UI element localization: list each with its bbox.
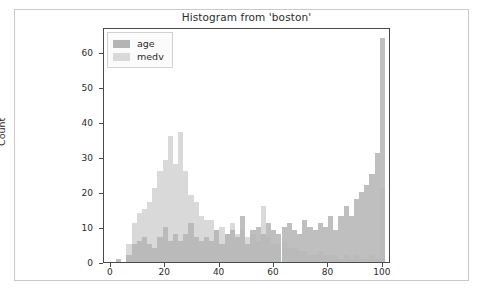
y-tick-mark <box>99 158 103 159</box>
x-tick-mark <box>219 263 220 267</box>
legend-swatch-medv <box>113 53 130 61</box>
legend-label-age: age <box>137 39 155 49</box>
x-tick-mark <box>164 263 165 267</box>
x-tick-label: 100 <box>362 267 402 277</box>
x-tick-mark <box>382 263 383 267</box>
y-tick-label: 50 <box>53 83 93 93</box>
figure-canvas: Histogram from 'boston' Count agemedv 01… <box>0 0 485 293</box>
y-tick-mark <box>99 228 103 229</box>
x-tick-label: 40 <box>199 267 239 277</box>
legend-item-age: age <box>113 37 164 50</box>
y-tick-mark <box>99 53 103 54</box>
chart-title: Histogram from 'boston' <box>103 11 390 23</box>
y-tick-label: 40 <box>53 118 93 128</box>
y-tick-label: 10 <box>53 223 93 233</box>
x-tick-label: 60 <box>253 267 293 277</box>
legend-swatch-age <box>113 40 130 48</box>
legend-item-medv: medv <box>113 50 164 63</box>
x-tick-mark <box>273 263 274 267</box>
x-tick-mark <box>327 263 328 267</box>
y-tick-mark <box>99 88 103 89</box>
x-tick-label: 0 <box>90 267 130 277</box>
x-tick-label: 80 <box>307 267 347 277</box>
y-tick-mark <box>99 263 103 264</box>
y-tick-mark <box>99 193 103 194</box>
histogram-bar-age <box>380 38 385 262</box>
x-tick-label: 20 <box>144 267 184 277</box>
y-tick-label: 0 <box>53 258 93 268</box>
histogram-bar-age <box>116 259 121 263</box>
chart-legend: agemedv <box>107 32 173 68</box>
x-tick-mark <box>110 263 111 267</box>
y-tick-label: 30 <box>53 153 93 163</box>
y-tick-mark <box>99 123 103 124</box>
y-tick-label: 20 <box>53 188 93 198</box>
legend-label-medv: medv <box>137 52 164 62</box>
y-tick-label: 60 <box>53 48 93 58</box>
y-axis-label: Count <box>0 118 7 146</box>
